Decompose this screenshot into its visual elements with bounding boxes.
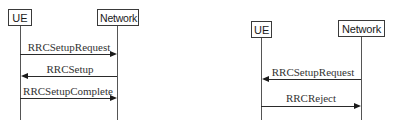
- network-lifeline: [117, 26, 118, 120]
- ue-label: UE: [12, 12, 27, 24]
- ue-entity-box: UE: [251, 21, 272, 38]
- network-label: Network: [342, 23, 381, 35]
- message-label: RRCSetup: [40, 63, 100, 75]
- diagram-canvas: UE Network RRCSetupRequest RRCSetup RRCS…: [0, 0, 399, 130]
- ue-label: UE: [254, 24, 269, 36]
- network-lifeline: [361, 37, 362, 120]
- ue-entity-box: UE: [8, 9, 32, 26]
- message-arrow-line: [27, 76, 117, 77]
- network-label: Network: [100, 12, 137, 24]
- arrowhead-left-icon: [262, 76, 269, 82]
- message-arrow-line: [20, 54, 111, 55]
- message-arrow-line: [268, 79, 361, 80]
- network-entity-box: Network: [97, 9, 139, 26]
- arrowhead-right-icon: [354, 103, 361, 109]
- message-arrow-line: [20, 98, 111, 99]
- message-label: RRCSetupRequest: [270, 66, 356, 78]
- message-arrow-line: [261, 106, 354, 107]
- message-label: RRCReject: [283, 92, 339, 104]
- network-entity-box: Network: [338, 20, 385, 37]
- message-label: RRCSetupRequest: [26, 41, 112, 53]
- arrowhead-right-icon: [110, 51, 117, 57]
- message-label: RRCSetupComplete: [22, 85, 114, 97]
- arrowhead-right-icon: [110, 95, 117, 101]
- arrowhead-left-icon: [21, 73, 28, 79]
